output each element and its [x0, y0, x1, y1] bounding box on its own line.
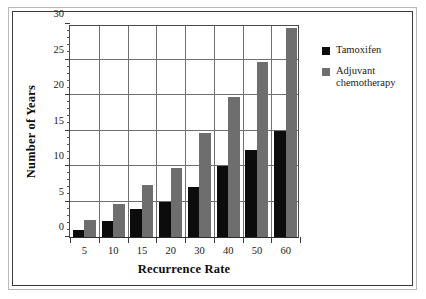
x-axis-tick-label: 60	[280, 245, 291, 256]
chart-legend: TamoxifenAdjuvantchemotherapy	[322, 44, 414, 98]
bar-tamoxifen-20	[159, 202, 171, 238]
bar-tamoxifen-60	[274, 131, 286, 238]
x-axis-tick-label: 20	[165, 245, 176, 256]
x-tick	[185, 237, 186, 243]
y-tick-minor	[67, 101, 70, 102]
x-axis-tick-label: 30	[194, 245, 205, 256]
y-axis-tick-label: 30	[54, 8, 65, 19]
x-axis-tick-label: 40	[223, 245, 234, 256]
x-tick	[214, 237, 215, 243]
bar-tamoxifen-40	[217, 166, 229, 237]
gridline-vertical	[156, 26, 157, 237]
bar-tamoxifen-30	[188, 187, 200, 237]
y-tick-minor	[67, 158, 70, 159]
gridline-vertical	[99, 26, 100, 237]
bar-adjuvant-chemotherapy-10	[113, 204, 125, 237]
bar-tamoxifen-5	[73, 230, 85, 237]
x-axis-tick-label: 10	[108, 245, 119, 256]
legend-entry[interactable]: Adjuvantchemotherapy	[322, 65, 414, 89]
y-axis-tick-label: 0	[59, 221, 64, 232]
y-tick-minor	[67, 115, 70, 116]
x-tick	[99, 237, 100, 243]
bar-adjuvant-chemotherapy-60	[286, 28, 298, 237]
y-tick-minor	[67, 122, 70, 123]
y-axis-title: Number of Years	[22, 25, 42, 238]
y-tick-minor	[67, 215, 70, 216]
y-tick-minor	[67, 108, 70, 109]
y-axis-title-label: Number of Years	[25, 85, 40, 178]
gridline-vertical	[214, 26, 215, 237]
y-tick-minor	[67, 151, 70, 152]
y-tick-major	[65, 94, 70, 95]
figure-canvas: Number of Years 051015202530 51015203040…	[0, 0, 426, 299]
legend-entry-label: Adjuvantchemotherapy	[336, 65, 395, 89]
gridline-vertical	[243, 26, 244, 237]
x-axis-tick-label: 5	[82, 245, 87, 256]
gridline-vertical	[271, 26, 272, 237]
y-tick-minor	[67, 73, 70, 74]
y-tick-minor	[67, 137, 70, 138]
y-tick-minor	[67, 222, 70, 223]
y-tick-major	[65, 23, 70, 24]
bar-tamoxifen-50	[245, 150, 257, 237]
y-tick-minor	[67, 172, 70, 173]
y-tick-major	[65, 59, 70, 60]
legend-entry-label: Tamoxifen	[336, 44, 381, 56]
y-tick-minor	[67, 208, 70, 209]
bar-adjuvant-chemotherapy-5	[84, 220, 96, 237]
y-tick-minor	[67, 87, 70, 88]
bar-adjuvant-chemotherapy-50	[257, 62, 269, 237]
legend-swatch-icon	[322, 68, 330, 76]
legend-entry[interactable]: Tamoxifen	[322, 44, 414, 56]
y-tick-minor	[67, 193, 70, 194]
bar-adjuvant-chemotherapy-30	[199, 133, 211, 237]
y-axis-tick-label: 10	[54, 150, 65, 161]
y-tick-minor	[67, 66, 70, 67]
x-axis-title: Recurrence Rate	[69, 262, 299, 277]
plot-area: 051015202530 510152030405060	[69, 25, 299, 238]
y-tick-minor	[67, 51, 70, 52]
x-tick	[243, 237, 244, 243]
bar-tamoxifen-15	[130, 209, 142, 237]
x-axis-tick-label: 15	[137, 245, 148, 256]
x-tick	[300, 237, 301, 243]
gridline-vertical	[185, 26, 186, 237]
y-tick-major	[65, 130, 70, 131]
bar-adjuvant-chemotherapy-20	[171, 168, 183, 237]
x-tick	[128, 237, 129, 243]
y-tick-major	[65, 201, 70, 202]
x-tick	[271, 237, 272, 243]
legend-swatch-icon	[322, 47, 330, 55]
bar-tamoxifen-10	[102, 221, 114, 237]
y-tick-minor	[67, 229, 70, 230]
y-tick-minor	[67, 186, 70, 187]
bar-adjuvant-chemotherapy-15	[142, 185, 154, 237]
y-tick-minor	[67, 179, 70, 180]
x-axis-tick-label: 50	[252, 245, 263, 256]
y-axis-tick-label: 15	[54, 114, 65, 125]
gridline-horizontal	[70, 59, 298, 60]
y-axis-tick-label: 5	[59, 185, 64, 196]
y-tick-minor	[67, 37, 70, 38]
bar-adjuvant-chemotherapy-40	[228, 97, 240, 237]
x-tick	[156, 237, 157, 243]
y-tick-minor	[67, 44, 70, 45]
gridline-vertical	[128, 26, 129, 237]
y-tick-minor	[67, 30, 70, 31]
y-axis-tick-label: 20	[54, 79, 65, 90]
y-tick-minor	[67, 80, 70, 81]
x-tick	[70, 237, 71, 243]
y-tick-major	[65, 165, 70, 166]
y-tick-minor	[67, 144, 70, 145]
y-axis-tick-label: 25	[54, 43, 65, 54]
